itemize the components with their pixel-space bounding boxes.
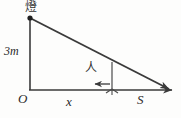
lamp-label: 燈 xyxy=(25,1,37,13)
shadow-s-label: S xyxy=(137,93,144,106)
lamp-point-marker xyxy=(27,15,32,20)
geometry-figure: 燈 3m 人 O x S xyxy=(0,0,181,118)
person-label: 人 xyxy=(85,62,97,74)
origin-label: O xyxy=(18,92,27,105)
pole-height-label: 3m xyxy=(4,45,19,57)
light-ray-hypotenuse xyxy=(30,18,169,89)
distance-x-label: x xyxy=(66,95,72,108)
